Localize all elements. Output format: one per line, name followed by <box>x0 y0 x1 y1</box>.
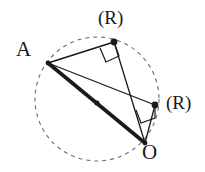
right-angle-top-label: (R) <box>98 8 123 27</box>
segment-a-to-right <box>48 63 155 105</box>
point-a-label: A <box>16 39 31 60</box>
point-right-vertex-dot <box>152 102 159 109</box>
point-center-dot <box>94 100 99 105</box>
point-a-dot <box>46 61 51 66</box>
geometry-figure: A O (R) (R) <box>0 0 205 172</box>
point-o-label: O <box>142 142 157 163</box>
segment-a-to-top <box>48 42 114 63</box>
right-angle-right-label: (R) <box>166 93 191 112</box>
segment-top-to-o <box>114 42 145 143</box>
point-top-vertex-dot <box>111 39 118 46</box>
